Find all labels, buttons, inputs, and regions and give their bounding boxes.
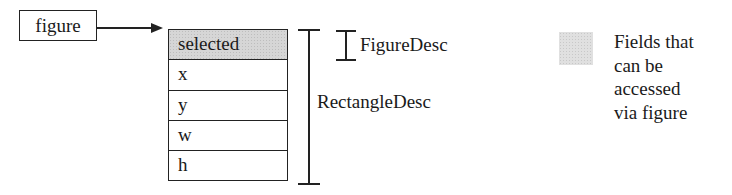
legend-line: Fields that <box>614 30 724 54</box>
field-y: y <box>169 90 287 120</box>
field-label: selected <box>178 33 239 54</box>
field-label: y <box>178 94 188 115</box>
field-label: h <box>178 154 188 175</box>
field-label: w <box>178 124 192 145</box>
legend-text: Fields that can be accessed via figure <box>614 30 724 125</box>
legend-line: can be <box>614 54 724 78</box>
field-label: x <box>178 63 188 84</box>
rectangle-desc-bracket-bottom <box>298 183 320 185</box>
legend-line: accessed <box>614 77 724 101</box>
field-w: w <box>169 120 287 150</box>
rectangle-desc-label: RectangleDesc <box>317 91 431 113</box>
figure-desc-bracket-line <box>345 30 347 60</box>
field-h: h <box>169 150 287 180</box>
legend-line: via figure <box>614 101 724 125</box>
figure-desc-label: FigureDesc <box>360 34 448 56</box>
rectangle-struct: selected x y w h <box>168 29 288 181</box>
legend-swatch <box>559 32 593 65</box>
field-selected: selected <box>169 30 287 59</box>
figure-pointer-box: figure <box>19 10 97 41</box>
rectangle-desc-bracket-line <box>308 29 310 184</box>
figure-pointer-label: figure <box>35 15 80 36</box>
figure-desc-bracket-bottom <box>336 59 356 61</box>
pointer-arrow-line <box>97 27 152 29</box>
field-x: x <box>169 59 287 89</box>
arrow-head-icon <box>151 23 163 33</box>
